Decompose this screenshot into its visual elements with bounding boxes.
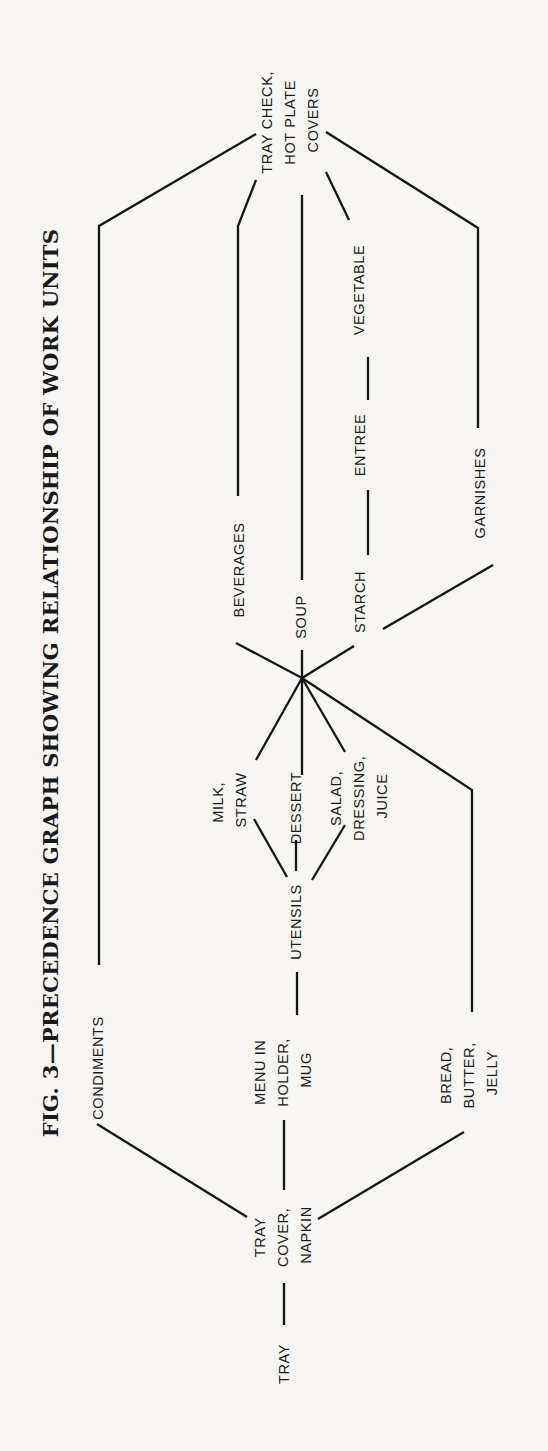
edge-vegetable-to-traycheck: [326, 172, 349, 220]
edge-salad-to-hub: [302, 678, 345, 752]
figure-title: FIG. 3—PRECEDENCE GRAPH SHOWING RELATION…: [38, 229, 63, 1138]
node-vegetable: VEGETABLE: [351, 245, 367, 336]
node-soup: SOUP: [293, 595, 309, 639]
precedence-graph: FIG. 3—PRECEDENCE GRAPH SHOWING RELATION…: [0, 0, 548, 1451]
edge-milk-to-hub: [256, 678, 302, 760]
node-bread-butter-jelly: BREAD, BUTTER, JELLY: [438, 1038, 500, 1109]
node-tray-cover-napkin: TRAY COVER, NAPKIN: [252, 1203, 314, 1267]
edge-cover-to-condiments: [97, 1124, 247, 1217]
node-milk-straw: MILK, STRAW: [210, 773, 249, 828]
edge-utensils-to-milk: [254, 819, 287, 877]
node-condiments: CONDIMENTS: [90, 1016, 106, 1119]
node-tray: TRAY: [276, 1344, 292, 1384]
edge-cover-to-bread: [318, 1132, 464, 1219]
edge-bread-to-hub: [302, 678, 472, 1012]
node-menu-holder-mug: MENU IN HOLDER, MUG: [252, 1033, 314, 1106]
node-entree: ENTREE: [352, 414, 368, 476]
edge-hub-to-starch: [302, 646, 354, 678]
edge-beverages-to-traycheck: [238, 180, 256, 496]
edge-starch-to-garnishes: [383, 565, 493, 629]
edge-hub-to-beverages: [236, 643, 302, 678]
node-tray-check-hot-plate-covers: TRAY CHECK, HOT PLATE COVERS: [259, 66, 321, 173]
nodes: TRAY TRAY COVER, NAPKIN CONDIMENTS MENU …: [90, 66, 500, 1384]
node-salad-dressing-juice: SALAD, DRESSING, JUICE: [328, 751, 390, 841]
edges: [97, 132, 493, 1325]
edge-garnishes-to-traycheck: [326, 132, 478, 428]
node-dessert: DESSERT: [288, 772, 304, 844]
node-garnishes: GARNISHES: [472, 448, 488, 539]
edge-utensils-to-salad: [312, 825, 345, 880]
node-beverages: BEVERAGES: [231, 523, 247, 618]
node-starch: STARCH: [352, 571, 368, 633]
node-utensils: UTENSILS: [288, 884, 304, 960]
